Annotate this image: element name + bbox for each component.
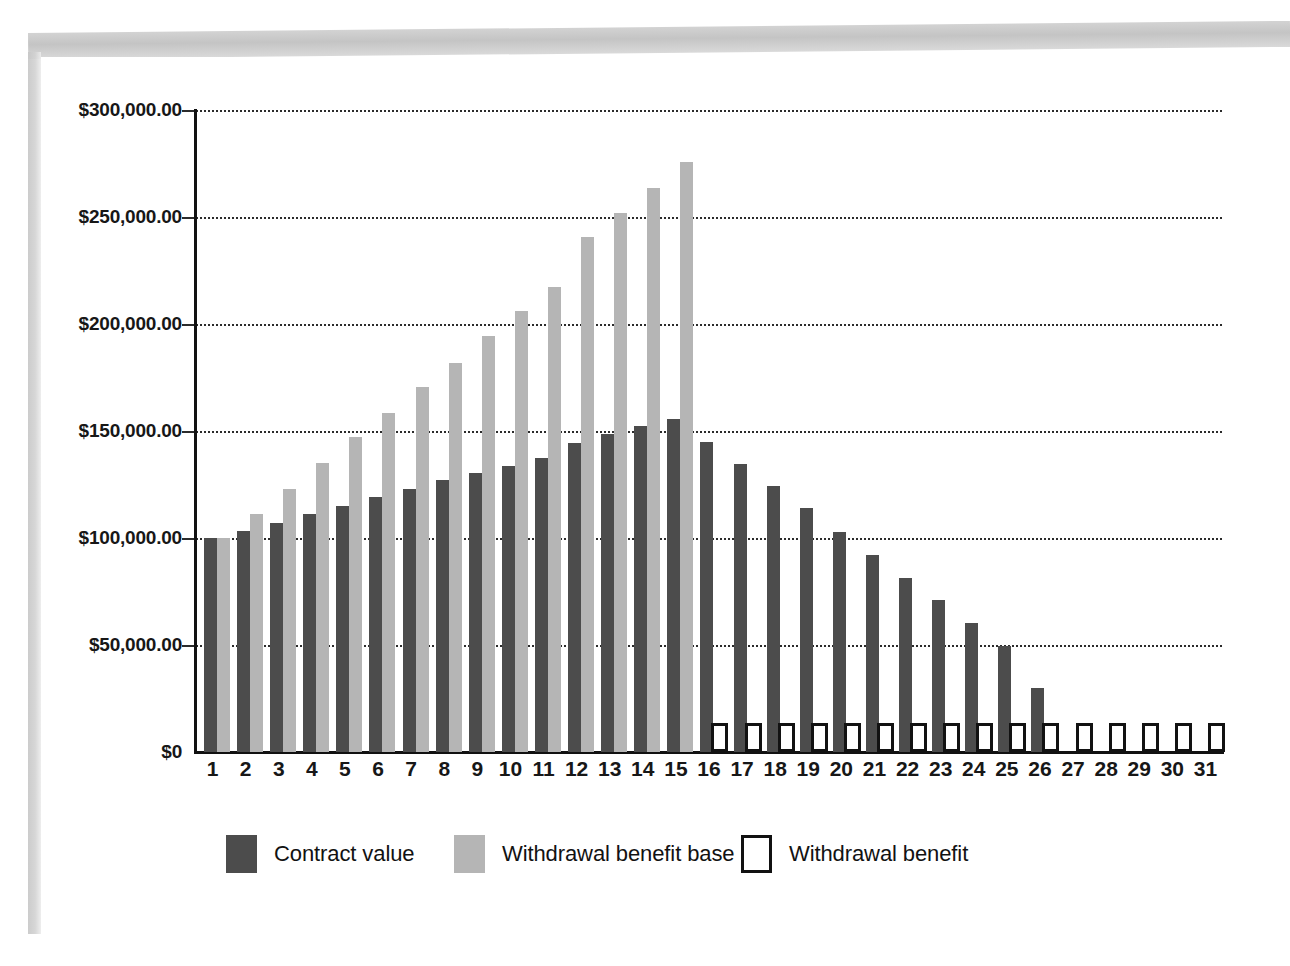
legend-swatch (226, 835, 257, 873)
bar-contract-value (204, 538, 217, 752)
bar-withdrawal-benefit-base (283, 489, 296, 752)
bar-withdrawal-benefit (1109, 723, 1126, 752)
x-axis-tick-label: 1 (207, 757, 219, 781)
bar-contract-value (734, 464, 747, 752)
bar-withdrawal-benefit-base (217, 538, 230, 752)
bar-contract-value (800, 508, 813, 752)
x-axis-tick-label: 2 (240, 757, 252, 781)
x-axis-tick-label: 6 (372, 757, 384, 781)
bar-contract-value (700, 442, 713, 752)
bar-withdrawal-benefit-base (349, 437, 362, 752)
bar-contract-value (336, 506, 349, 752)
x-axis-tick-label: 29 (1128, 757, 1151, 781)
bar-contract-value (303, 514, 316, 752)
y-axis-tick-label: $50,000.00 (89, 634, 182, 656)
x-axis-tick-label: 19 (797, 757, 820, 781)
y-axis-tick-mark (182, 217, 194, 219)
y-axis-tick-mark (182, 110, 194, 112)
bar-withdrawal-benefit-base (680, 162, 693, 752)
bar-withdrawal-benefit-base (382, 413, 395, 752)
x-axis-tick-label: 22 (896, 757, 919, 781)
bar-contract-value (634, 426, 647, 752)
legend-label: Contract value (274, 841, 414, 867)
bar-contract-value (502, 466, 515, 752)
bar-contract-value (469, 473, 482, 752)
x-axis-tick-label: 14 (631, 757, 654, 781)
legend-swatch (454, 835, 485, 873)
bar-withdrawal-benefit-base (482, 336, 495, 752)
bar-withdrawal-benefit-base (316, 463, 329, 752)
x-axis-tick-label: 31 (1194, 757, 1217, 781)
x-axis-tick-label: 20 (830, 757, 853, 781)
bar-withdrawal-benefit-base (581, 237, 594, 752)
bar-contract-value (535, 458, 548, 752)
bar-contract-value (403, 489, 416, 752)
legend-item: Contract value (226, 828, 414, 880)
x-axis-tick-label: 9 (471, 757, 483, 781)
x-axis-tick-label: 18 (764, 757, 787, 781)
y-axis-tick-label: $0 (161, 741, 182, 763)
bar-withdrawal-benefit-base (548, 287, 561, 752)
y-axis-tick-label: $250,000.00 (79, 206, 182, 228)
bar-withdrawal-benefit (711, 723, 728, 752)
x-axis-tick-label: 11 (532, 757, 554, 781)
x-axis-tick-label: 4 (306, 757, 318, 781)
x-axis-tick-label: 10 (499, 757, 522, 781)
bar-withdrawal-benefit-base (647, 188, 660, 752)
bar-contract-value (767, 486, 780, 752)
y-axis-tick-mark (182, 324, 194, 326)
legend-item: Withdrawal benefit (741, 828, 968, 880)
bar-contract-value (568, 443, 581, 752)
bar-contract-value (601, 434, 614, 752)
bar-contract-value (667, 419, 680, 752)
y-axis-tick-label: $200,000.00 (79, 313, 182, 335)
bar-withdrawal-benefit-base (250, 514, 263, 752)
bar-withdrawal-benefit (811, 723, 828, 752)
bar-withdrawal-benefit (1175, 723, 1192, 752)
legend-swatch (741, 835, 772, 873)
bar-withdrawal-benefit (778, 723, 795, 752)
x-axis-tick-label: 16 (697, 757, 720, 781)
bar-withdrawal-benefit (1042, 723, 1059, 752)
x-axis-tick-label: 27 (1061, 757, 1084, 781)
y-axis-tick-mark (182, 645, 194, 647)
chart-legend: Contract valueWithdrawal benefit baseWit… (196, 828, 1222, 880)
x-axis-tick-label: 15 (664, 757, 687, 781)
bar-withdrawal-benefit (1009, 723, 1026, 752)
y-axis-tick-mark (182, 538, 194, 540)
bar-withdrawal-benefit (1208, 723, 1225, 752)
x-axis-tick-label: 8 (438, 757, 450, 781)
y-axis-tick-label: $300,000.00 (79, 99, 182, 121)
x-axis-tick-label: 17 (730, 757, 753, 781)
x-axis-tick-label: 12 (565, 757, 588, 781)
x-axis-tick-label: 3 (273, 757, 285, 781)
bar-withdrawal-benefit-base (449, 363, 462, 752)
bar-withdrawal-benefit (1076, 723, 1093, 752)
bar-withdrawal-benefit (877, 723, 894, 752)
bar-contract-value (833, 532, 846, 752)
bar-contract-value (270, 523, 283, 752)
legend-label: Withdrawal benefit (789, 841, 968, 867)
x-axis-tick-label: 13 (598, 757, 621, 781)
bar-withdrawal-benefit-base (515, 311, 528, 752)
bar-withdrawal-benefit (943, 723, 960, 752)
bar-contract-value (369, 497, 382, 752)
bar-contract-value (237, 531, 250, 752)
bar-withdrawal-benefit (1142, 723, 1159, 752)
bar-withdrawal-benefit (844, 723, 861, 752)
x-axis-tick-label: 25 (995, 757, 1018, 781)
x-axis-tick-label: 23 (929, 757, 952, 781)
bar-withdrawal-benefit (976, 723, 993, 752)
bar-withdrawal-benefit-base (416, 387, 429, 752)
legend-item: Withdrawal benefit base (454, 828, 735, 880)
y-axis-tick-label: $100,000.00 (79, 527, 182, 549)
bar-withdrawal-benefit (910, 723, 927, 752)
bar-contract-value (436, 480, 449, 752)
legend-label: Withdrawal benefit base (502, 841, 735, 867)
bar-withdrawal-benefit-base (614, 213, 627, 752)
y-axis-tick-mark (182, 431, 194, 433)
bar-withdrawal-benefit (745, 723, 762, 752)
plot-area (196, 110, 1222, 752)
x-axis-tick-label: 5 (339, 757, 351, 781)
